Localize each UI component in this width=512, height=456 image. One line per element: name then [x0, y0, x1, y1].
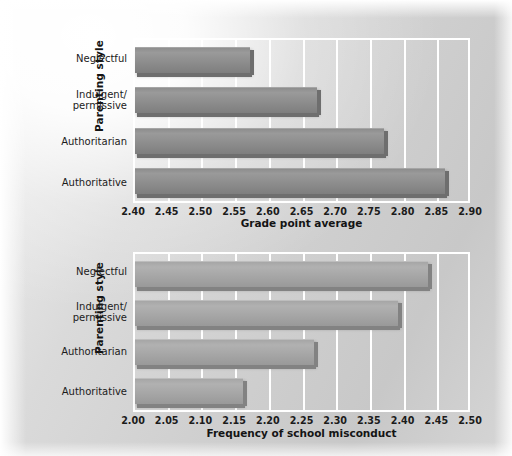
figure-page: Parenting style NeglectfulIndulgent/perm…: [0, 0, 512, 456]
x-tick-label: 2.60: [256, 206, 280, 217]
plot-area: [133, 38, 470, 203]
bar-row: [135, 332, 468, 371]
bar-indulgent-permissive: [135, 87, 317, 113]
bar-row: [135, 121, 468, 161]
x-tick-label: 2.40: [121, 206, 145, 217]
x-tick-label: 2.40: [391, 415, 415, 426]
x-tick-label: 2.85: [424, 206, 448, 217]
bar-row: [135, 161, 468, 201]
bar-authoritative: [135, 378, 243, 404]
bar-series: [135, 254, 468, 410]
y-category-labels: NeglectfulIndulgent/permissiveAuthoritar…: [34, 38, 130, 203]
chart-grade-point-average: Parenting style NeglectfulIndulgent/perm…: [0, 14, 512, 230]
x-tick-label: 2.90: [458, 206, 482, 217]
plot-area: [133, 252, 470, 412]
y-category-label: Indulgent/permissive: [34, 79, 130, 120]
bar-indulgent-permissive: [135, 300, 398, 326]
y-category-label: Neglectful: [34, 38, 130, 79]
bar-row: [135, 40, 468, 80]
x-tick-label: 2.30: [323, 415, 347, 426]
bar-row: [135, 80, 468, 120]
x-axis-title: Grade point average: [133, 217, 470, 229]
x-tick-label: 2.45: [424, 415, 448, 426]
x-tick-label: 2.10: [189, 415, 213, 426]
x-tick-label: 2.55: [222, 206, 246, 217]
x-tick-label: 2.05: [155, 415, 179, 426]
x-axis-title: Frequency of school misconduct: [133, 427, 470, 439]
bar-series: [135, 40, 468, 201]
x-tick-label: 2.50: [189, 206, 213, 217]
x-tick-label: 2.70: [323, 206, 347, 217]
bar-authoritative: [135, 168, 445, 194]
y-category-label: Neglectful: [34, 252, 130, 292]
x-tick-label: 2.00: [121, 415, 145, 426]
x-tick-label: 2.35: [357, 415, 381, 426]
y-category-label: Authoritarian: [34, 332, 130, 372]
y-category-label: Authoritative: [34, 162, 130, 203]
x-tick-label: 2.75: [357, 206, 381, 217]
x-tick-label: 2.80: [391, 206, 415, 217]
x-tick-label: 2.20: [256, 415, 280, 426]
x-tick-label: 2.25: [290, 415, 314, 426]
x-tick-label: 2.45: [155, 206, 179, 217]
bar-row: [135, 254, 468, 293]
x-tick-label: 2.15: [222, 415, 246, 426]
bar-row: [135, 371, 468, 410]
x-tick-label: 2.50: [458, 415, 482, 426]
y-category-label: Indulgent/permissive: [34, 292, 130, 332]
bar-authoritarian: [135, 339, 314, 365]
x-tick-label: 2.65: [290, 206, 314, 217]
y-category-label: Authoritative: [34, 372, 130, 412]
bar-row: [135, 293, 468, 332]
y-category-labels: NeglectfulIndulgent/permissiveAuthoritar…: [34, 252, 130, 412]
bar-authoritarian: [135, 128, 384, 154]
bar-neglectful: [135, 261, 428, 287]
bar-neglectful: [135, 47, 250, 73]
chart-frequency-of-school-misconduct: Parenting style NeglectfulIndulgent/perm…: [0, 240, 512, 452]
y-category-label: Authoritarian: [34, 121, 130, 162]
